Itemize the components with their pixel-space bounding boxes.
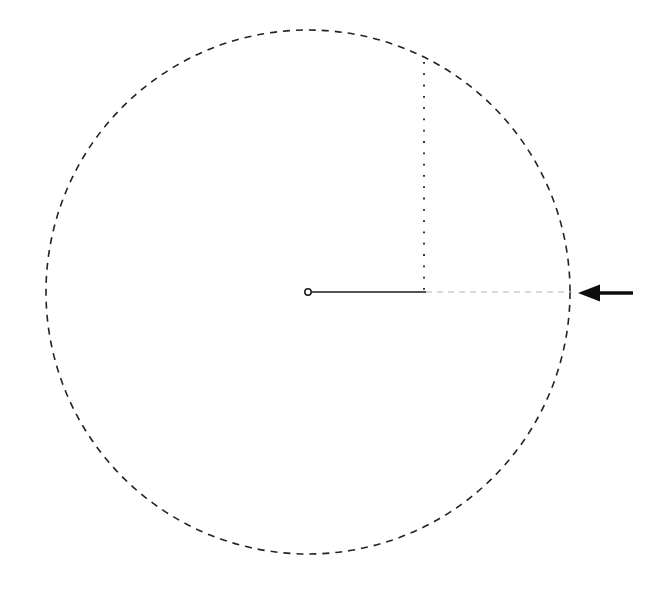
center-point-marker [305,289,311,295]
circle-diagram-figure [0,0,661,594]
diagram-canvas [0,0,661,594]
figure-background [0,0,661,594]
